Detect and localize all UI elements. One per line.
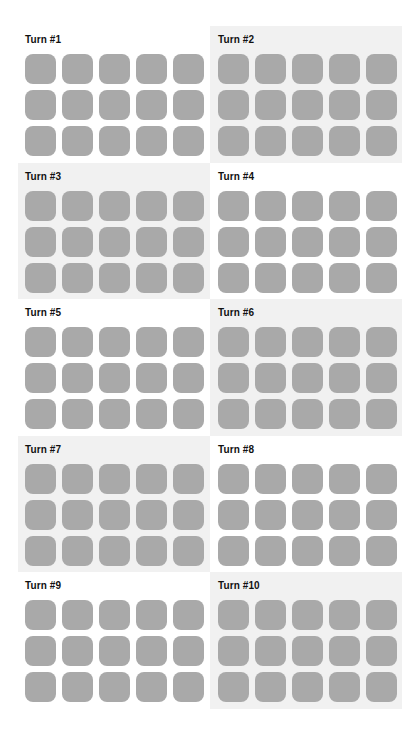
tile[interactable]: [366, 636, 397, 666]
tile[interactable]: [173, 263, 204, 293]
tile[interactable]: [255, 600, 286, 630]
tile[interactable]: [329, 363, 360, 393]
tile[interactable]: [173, 500, 204, 530]
tile[interactable]: [25, 500, 56, 530]
tile[interactable]: [25, 327, 56, 357]
tile[interactable]: [173, 464, 204, 494]
tile[interactable]: [292, 191, 323, 221]
tile[interactable]: [136, 464, 167, 494]
tile[interactable]: [218, 327, 249, 357]
tile[interactable]: [292, 363, 323, 393]
tile[interactable]: [99, 536, 130, 566]
tile[interactable]: [218, 600, 249, 630]
tile[interactable]: [329, 327, 360, 357]
tile[interactable]: [62, 54, 93, 84]
tile[interactable]: [366, 227, 397, 257]
tile[interactable]: [218, 90, 249, 120]
tile[interactable]: [136, 327, 167, 357]
tile[interactable]: [329, 464, 360, 494]
tile[interactable]: [173, 54, 204, 84]
tile[interactable]: [292, 464, 323, 494]
tile[interactable]: [292, 227, 323, 257]
tile[interactable]: [292, 263, 323, 293]
tile[interactable]: [99, 263, 130, 293]
tile[interactable]: [173, 327, 204, 357]
tile[interactable]: [366, 600, 397, 630]
tile[interactable]: [173, 672, 204, 702]
tile[interactable]: [292, 54, 323, 84]
tile[interactable]: [62, 227, 93, 257]
tile[interactable]: [329, 54, 360, 84]
tile[interactable]: [136, 363, 167, 393]
tile[interactable]: [329, 500, 360, 530]
tile[interactable]: [136, 672, 167, 702]
tile[interactable]: [25, 263, 56, 293]
tile[interactable]: [25, 363, 56, 393]
tile[interactable]: [329, 536, 360, 566]
tile[interactable]: [255, 126, 286, 156]
tile[interactable]: [329, 191, 360, 221]
tile[interactable]: [255, 54, 286, 84]
tile[interactable]: [255, 464, 286, 494]
tile[interactable]: [136, 54, 167, 84]
tile[interactable]: [218, 363, 249, 393]
tile[interactable]: [99, 363, 130, 393]
tile[interactable]: [99, 191, 130, 221]
tile[interactable]: [218, 500, 249, 530]
tile[interactable]: [329, 126, 360, 156]
tile[interactable]: [25, 672, 56, 702]
tile[interactable]: [173, 227, 204, 257]
tile[interactable]: [329, 399, 360, 429]
tile[interactable]: [366, 536, 397, 566]
tile[interactable]: [62, 464, 93, 494]
tile[interactable]: [255, 536, 286, 566]
tile[interactable]: [62, 399, 93, 429]
tile[interactable]: [99, 636, 130, 666]
tile[interactable]: [99, 327, 130, 357]
tile[interactable]: [25, 536, 56, 566]
tile[interactable]: [329, 600, 360, 630]
tile[interactable]: [25, 126, 56, 156]
tile[interactable]: [25, 464, 56, 494]
tile[interactable]: [218, 399, 249, 429]
tile[interactable]: [62, 536, 93, 566]
tile[interactable]: [62, 126, 93, 156]
tile[interactable]: [329, 672, 360, 702]
tile[interactable]: [25, 227, 56, 257]
tile[interactable]: [99, 399, 130, 429]
tile[interactable]: [366, 672, 397, 702]
tile[interactable]: [62, 263, 93, 293]
tile[interactable]: [136, 227, 167, 257]
tile[interactable]: [99, 126, 130, 156]
tile[interactable]: [366, 363, 397, 393]
tile[interactable]: [136, 263, 167, 293]
tile[interactable]: [292, 327, 323, 357]
tile[interactable]: [255, 327, 286, 357]
tile[interactable]: [366, 327, 397, 357]
tile[interactable]: [255, 191, 286, 221]
tile[interactable]: [62, 191, 93, 221]
tile[interactable]: [62, 672, 93, 702]
tile[interactable]: [25, 90, 56, 120]
tile[interactable]: [218, 54, 249, 84]
tile[interactable]: [99, 500, 130, 530]
tile[interactable]: [136, 600, 167, 630]
tile[interactable]: [25, 191, 56, 221]
tile[interactable]: [62, 363, 93, 393]
tile[interactable]: [292, 90, 323, 120]
tile[interactable]: [99, 54, 130, 84]
tile[interactable]: [25, 54, 56, 84]
tile[interactable]: [173, 636, 204, 666]
tile[interactable]: [173, 90, 204, 120]
tile[interactable]: [25, 636, 56, 666]
tile[interactable]: [136, 90, 167, 120]
tile[interactable]: [136, 500, 167, 530]
tile[interactable]: [255, 90, 286, 120]
tile[interactable]: [292, 500, 323, 530]
tile[interactable]: [218, 263, 249, 293]
tile[interactable]: [62, 500, 93, 530]
tile[interactable]: [62, 90, 93, 120]
tile[interactable]: [218, 464, 249, 494]
tile[interactable]: [218, 227, 249, 257]
tile[interactable]: [366, 126, 397, 156]
